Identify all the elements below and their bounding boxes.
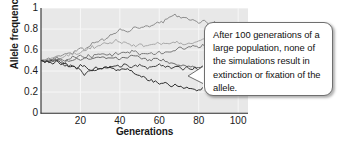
x-axis-title: Generations [41, 126, 248, 137]
x-tick-label: 80 [179, 116, 219, 126]
x-tick-label: 20 [60, 116, 100, 126]
x-tick-label: 60 [139, 116, 179, 126]
x-tick-label: 100 [218, 116, 258, 126]
callout-text: After 100 generations of a large populat… [213, 28, 329, 94]
genetic-drift-figure: Allele frequency 10.80.60.40.20 20406080… [0, 0, 340, 143]
x-tick-label: 40 [100, 116, 140, 126]
callout-box: After 100 generations of a large populat… [204, 22, 333, 96]
